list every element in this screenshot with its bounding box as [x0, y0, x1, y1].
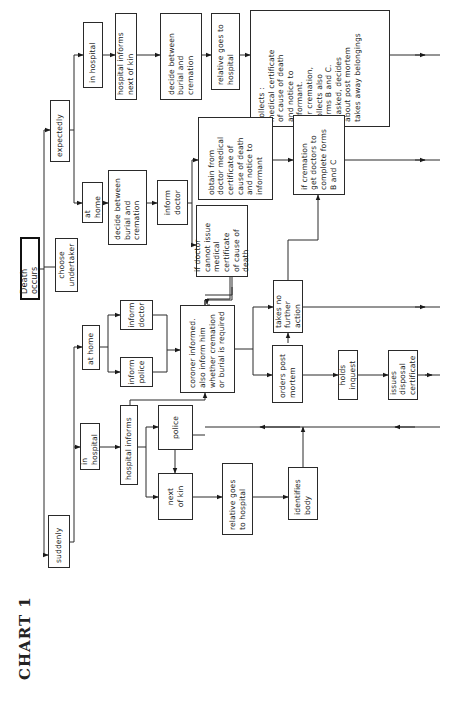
- sudden-in-hospital-node: in hospital: [80, 423, 100, 470]
- expected-collects-node: collects : medical certificate of cause …: [250, 10, 390, 127]
- sudden-hospital-informs-node: hospital informs: [120, 405, 138, 485]
- orders-post-mortem-node: orders post mortem: [272, 345, 303, 403]
- expectedly-node: expectedly: [50, 100, 70, 162]
- issues-disposal-certificate-node: issues disposal certificate: [388, 350, 418, 400]
- obtain-certificate-node: obtain from doctor medical certificate o…: [198, 117, 273, 200]
- expected-hospital-informs-kin-node: hospital informs next of kin: [115, 13, 137, 100]
- flowchart-canvas: CHART 1 Death occurs choose undertaker e…: [0, 0, 450, 705]
- death-occurs-node: Death occurs: [20, 237, 40, 300]
- suddenly-node: suddenly: [48, 515, 70, 568]
- expected-hospital-decide-node: decide between burial and cremation: [160, 13, 202, 100]
- chart-title: CHART 1: [16, 596, 34, 680]
- sudden-at-home-node: at home: [82, 325, 100, 370]
- expected-at-home-node: at home: [82, 182, 103, 223]
- expected-home-inform-doctor-node: inform doctor: [157, 180, 188, 225]
- sudden-inform-police-node: inform police: [120, 357, 153, 387]
- sudden-relative-goes-node: relative goes to hospital: [222, 463, 253, 535]
- takes-no-further-action-node: takes no further action: [273, 280, 303, 333]
- police-node: police: [158, 405, 193, 450]
- holds-inquest-node: holds inquest: [338, 350, 358, 400]
- if-cremation-node: if cremation get doctors to complete for…: [293, 115, 345, 195]
- coroner-informed-node: coroner informed. also inform him whethe…: [180, 305, 235, 393]
- sudden-inform-doctor-node: inform doctor: [120, 300, 153, 330]
- expected-home-decide-node: decide between burial and cremation: [108, 170, 147, 245]
- doctor-cannot-issue-node: if doctor cannot issue medical certifica…: [196, 205, 248, 277]
- identifies-body-node: identifies body: [288, 467, 318, 520]
- choose-undertaker-node: choose undertaker: [55, 238, 78, 292]
- expected-relative-goes-node: relative goes to hospital: [211, 13, 240, 90]
- next-of-kin-node: next of kin: [158, 473, 193, 520]
- expected-in-hospital-node: in hospital: [83, 22, 103, 88]
